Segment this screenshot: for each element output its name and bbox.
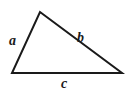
triangle-diagram: a b c — [0, 0, 129, 93]
side-label-b: b — [77, 31, 84, 45]
side-label-c: c — [61, 77, 67, 91]
triangle-outline — [12, 12, 122, 73]
side-label-a: a — [9, 34, 16, 48]
